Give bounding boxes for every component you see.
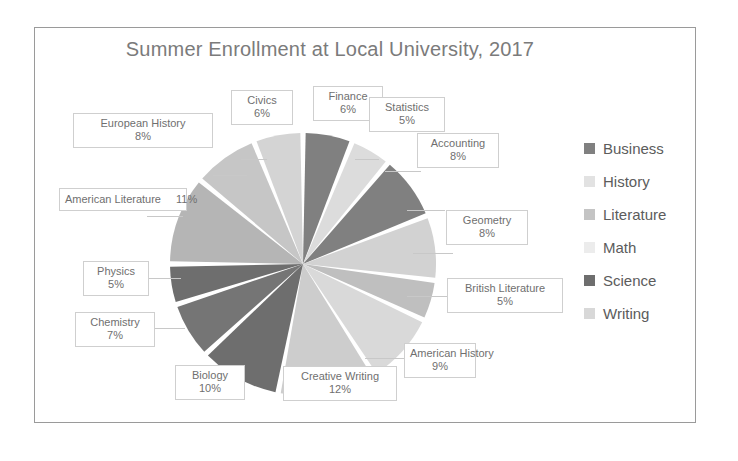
slice-label-pct: 7%: [81, 329, 149, 342]
slice-label-text: Statistics: [385, 101, 429, 113]
legend-swatch-icon: [584, 176, 595, 187]
legend: Business History Literature Math Science…: [584, 132, 694, 330]
slice-label-text: American History: [410, 347, 494, 359]
slice-label-pct: 5%: [375, 114, 439, 127]
leader-line: [355, 159, 379, 160]
slice-label-statistics: Statistics 5%: [369, 97, 445, 132]
legend-swatch-icon: [584, 275, 595, 286]
slice-label-text: Accounting: [431, 137, 485, 149]
leader-line: [385, 171, 421, 172]
legend-label: Business: [603, 140, 664, 157]
slice-label-pct: 11%: [164, 193, 197, 205]
slice-label-physics: Physics 5%: [83, 261, 149, 296]
slice-label-text: Civics: [247, 94, 276, 106]
legend-item-history[interactable]: History: [584, 165, 694, 198]
legend-swatch-icon: [584, 143, 595, 154]
chart-title: Summer Enrollment at Local University, 2…: [35, 38, 625, 61]
legend-item-writing[interactable]: Writing: [584, 297, 694, 330]
slice-label-chemistry: Chemistry 7%: [75, 312, 155, 347]
slice-label-pct: 12%: [289, 383, 391, 396]
leader-line: [241, 159, 267, 160]
slice-label-geometry: Geometry 8%: [446, 210, 528, 245]
slice-label-text: Biology: [192, 369, 228, 381]
legend-swatch-icon: [584, 209, 595, 220]
slice-label-american-literature: American Literature 11%: [59, 188, 187, 211]
slice-label-text: American Literature: [65, 193, 161, 205]
leader-line: [153, 328, 185, 329]
slice-label-american-history: American History 9%: [404, 343, 476, 378]
legend-label: Science: [603, 272, 656, 289]
slice-label-text: British Literature: [465, 282, 545, 294]
slice-label-text: Finance: [328, 90, 367, 102]
slice-label-pct: 5%: [89, 278, 143, 291]
slice-label-european-history: European History 8%: [73, 113, 213, 148]
pie-slice-group: [170, 133, 436, 395]
slice-label-pct: 5%: [453, 295, 557, 308]
slice-label-text: European History: [101, 117, 186, 129]
slice-label-text: Geometry: [463, 214, 511, 226]
slice-label-text: Physics: [97, 265, 135, 277]
leader-line: [413, 253, 453, 254]
slice-label-civics: Civics 6%: [231, 90, 293, 125]
slice-label-pct: 10%: [181, 382, 239, 395]
legend-label: Math: [603, 239, 636, 256]
slice-label-pct: 9%: [410, 360, 470, 373]
legend-label: Literature: [603, 206, 666, 223]
legend-item-science[interactable]: Science: [584, 264, 694, 297]
slice-label-pct: 8%: [79, 130, 207, 143]
slice-label-text: Creative Writing: [301, 370, 379, 382]
legend-item-math[interactable]: Math: [584, 231, 694, 264]
slice-label-creative-writing: Creative Writing 12%: [283, 366, 397, 401]
leader-line: [407, 296, 449, 297]
legend-swatch-icon: [584, 308, 595, 319]
legend-swatch-icon: [584, 242, 595, 253]
slice-label-text: Chemistry: [90, 316, 140, 328]
leader-line: [147, 278, 181, 279]
slice-label-biology: Biology 10%: [175, 365, 245, 400]
leader-line: [365, 358, 405, 359]
leader-line: [147, 216, 183, 217]
slice-label-pct: 8%: [423, 150, 493, 163]
legend-item-business[interactable]: Business: [584, 132, 694, 165]
slice-label-pct: 6%: [237, 107, 287, 120]
legend-label: Writing: [603, 305, 649, 322]
slice-label-accounting: Accounting 8%: [417, 133, 499, 168]
slice-label-pct: 8%: [452, 227, 522, 240]
slice-label-british-literature: British Literature 5%: [447, 278, 563, 313]
legend-label: History: [603, 173, 650, 190]
legend-item-literature[interactable]: Literature: [584, 198, 694, 231]
leader-line: [407, 210, 445, 211]
leader-line: [213, 175, 247, 176]
chart-frame: Summer Enrollment at Local University, 2…: [34, 27, 696, 423]
